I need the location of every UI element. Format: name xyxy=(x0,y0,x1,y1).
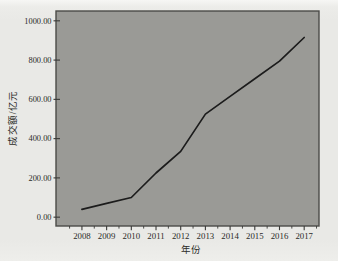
x-tick-label: 2009 xyxy=(98,231,116,241)
x-tick-label: 2015 xyxy=(246,231,264,241)
y-tick-label: 800.00 xyxy=(28,56,51,65)
y-tick-label: 200.00 xyxy=(28,174,51,183)
x-axis-title: 年份 xyxy=(181,246,202,256)
x-tick-label: 2013 xyxy=(197,231,215,241)
x-tick-label: 2017 xyxy=(295,231,313,241)
plot-area xyxy=(56,11,319,226)
x-tick-label: 2014 xyxy=(221,231,239,241)
x-tick-label: 2008 xyxy=(73,231,91,241)
chart-canvas: 0.00200.00400.00600.00800.001000.0020082… xyxy=(0,0,338,261)
y-tick-label: 600.00 xyxy=(28,95,51,104)
y-tick-label: 400.00 xyxy=(28,134,51,143)
y-tick-label: 1000.00 xyxy=(24,17,51,26)
turnover-line-chart: 0.00200.00400.00600.00800.001000.0020082… xyxy=(0,0,338,261)
x-tick-label: 2016 xyxy=(271,231,289,241)
x-tick-label: 2012 xyxy=(172,231,190,241)
scanned-page: 0.00200.00400.00600.00800.001000.0020082… xyxy=(0,0,338,261)
y-tick-label: 0.00 xyxy=(37,213,52,222)
x-tick-label: 2010 xyxy=(123,231,141,241)
y-axis-title: 成交额/亿元 xyxy=(9,90,19,146)
x-tick-label: 2011 xyxy=(147,231,164,241)
